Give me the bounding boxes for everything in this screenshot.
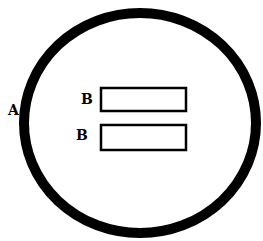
label-b-bottom: B <box>76 128 88 142</box>
rectangle-b-bottom <box>101 125 186 150</box>
outer-circle-a <box>24 13 256 233</box>
rectangle-b-top <box>101 88 186 111</box>
diagram-canvas <box>0 0 263 241</box>
label-a: A <box>8 103 19 117</box>
label-b-top: B <box>81 92 93 106</box>
